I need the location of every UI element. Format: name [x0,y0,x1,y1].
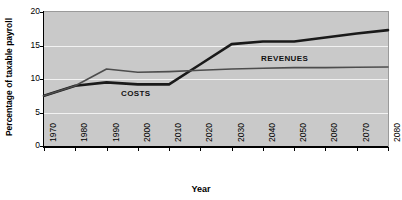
y-tick-mark [40,46,44,47]
x-tick-label: 2010 [173,123,183,153]
series-line-costs [44,30,388,96]
x-tick-mark [75,147,76,151]
x-tick-mark [263,147,264,151]
x-tick-mark [169,147,170,151]
x-tick-label: 2080 [392,123,402,153]
x-tick-label: 1990 [111,123,121,153]
y-tick-mark [40,113,44,114]
x-tick-mark [232,147,233,151]
x-tick-mark [107,147,108,151]
x-tick-mark [357,147,358,151]
chart-container: Percentage of taxable payroll 05101520 C… [0,0,402,200]
x-tick-mark [388,147,389,151]
series-label-revenues: REVENUES [261,54,308,63]
y-tick-mark [40,79,44,80]
x-tick-label: 1970 [48,123,58,153]
x-tick-label: 2020 [204,123,214,153]
x-tick-mark [325,147,326,151]
x-tick-label: 2070 [361,123,371,153]
x-tick-label: 2000 [142,123,152,153]
x-tick-mark [200,147,201,151]
x-tick-mark [138,147,139,151]
x-tick-label: 1980 [79,123,89,153]
x-axis-title: Year [0,184,402,194]
x-tick-mark [44,147,45,151]
x-tick-mark [294,147,295,151]
x-tick-label: 2040 [267,123,277,153]
x-tick-label: 2050 [298,123,308,153]
y-tick-mark [40,12,44,13]
x-tick-label: 2030 [236,123,246,153]
x-tick-label: 2060 [329,123,339,153]
series-label-costs: COSTS [121,89,151,98]
series-line-revenues [44,67,388,96]
y-tick-mark [40,146,44,147]
series-lines [0,0,402,200]
